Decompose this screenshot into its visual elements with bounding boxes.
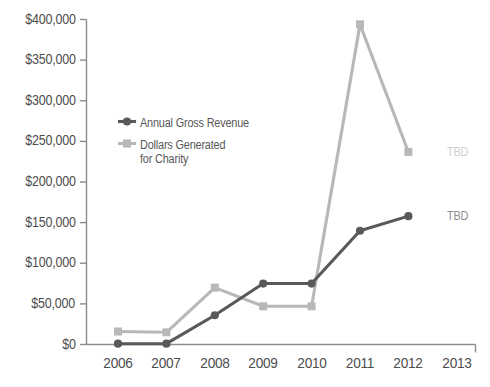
data-point-2009	[259, 279, 267, 287]
chart-series	[114, 20, 413, 347]
legend-label-annual-gross-revenue: Annual Gross Revenue	[140, 117, 249, 130]
chart-axes	[80, 20, 476, 353]
legend-markers	[118, 117, 136, 147]
chart-container: $0$50,000$100,000$150,000$200,000$250,00…	[0, 0, 490, 387]
annotation-tbd-0: TBD	[447, 145, 468, 159]
data-point-2010	[308, 279, 316, 287]
x-axis-tick-label-2009: 2009	[237, 354, 290, 372]
legend-label-dollars-generated-for-charity: Dollars Generated	[140, 139, 225, 152]
x-axis-tick-label-2007: 2007	[140, 354, 193, 372]
x-axis-tick-label-2006: 2006	[92, 354, 145, 372]
data-point-2008	[211, 284, 219, 292]
data-point-2012	[404, 212, 412, 220]
y-axis-tick-label-0: $0	[62, 336, 76, 352]
y-axis-tick-label-6: $300,000	[25, 92, 76, 108]
y-axis-tick-label-8: $400,000	[25, 11, 76, 27]
y-axis-tick-label-2: $100,000	[25, 254, 76, 270]
y-axis-tick-label-7: $350,000	[25, 51, 76, 67]
y-axis-tick-label-1: $50,000	[32, 295, 76, 311]
data-point-2006	[114, 328, 122, 336]
x-axis-tick-label-2008: 2008	[188, 354, 241, 372]
data-point-2007	[162, 340, 170, 348]
legend-swatch-marker-0	[123, 117, 131, 125]
x-axis-tick-label-2010: 2010	[285, 354, 338, 372]
data-point-2011	[356, 20, 364, 28]
data-point-2010	[308, 302, 316, 310]
series-annual-gross-revenue	[114, 212, 413, 348]
legend-label-dollars-generated-for-charity-line2: for Charity	[140, 153, 188, 166]
y-axis-tick-label-4: $200,000	[25, 173, 76, 189]
annotation-tbd-1: TBD	[447, 209, 468, 223]
data-point-2012	[404, 148, 412, 156]
x-axis-tick-label-2013: 2013	[430, 354, 483, 372]
y-axis-tick-label-5: $250,000	[25, 132, 76, 148]
series-dollars-generated-for-charity	[114, 20, 412, 336]
legend-swatch-marker-1	[123, 140, 131, 148]
y-axis-tick-label-3: $150,000	[25, 214, 76, 230]
data-point-2007	[162, 328, 170, 336]
data-point-2008	[211, 311, 219, 319]
data-point-2011	[356, 227, 364, 235]
data-point-2009	[259, 302, 267, 310]
data-point-2006	[114, 340, 122, 348]
x-axis-tick-label-2012: 2012	[382, 354, 435, 372]
x-axis-tick-label-2011: 2011	[334, 354, 387, 372]
